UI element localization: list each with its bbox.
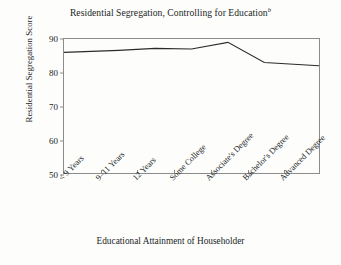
x-axis-tick-labels: < 9 Years9–11 Years12 YearsSome CollegeA… bbox=[63, 176, 320, 226]
chart-title: Residential Segregation, Controlling for… bbox=[0, 6, 341, 18]
y-tick-label-70: 70 bbox=[49, 102, 58, 112]
y-tick-label-90: 90 bbox=[49, 34, 58, 44]
y-axis-title: Residential Segregation Score bbox=[24, 0, 34, 144]
y-tick-label-60: 60 bbox=[49, 136, 58, 146]
chart-title-footnote-marker: b bbox=[268, 6, 271, 13]
chart-figure: Residential Segregation, Controlling for… bbox=[0, 0, 341, 265]
y-tick-mark-70 bbox=[60, 107, 64, 108]
data-series-line bbox=[64, 42, 319, 65]
y-tick-mark-60 bbox=[60, 141, 64, 142]
y-tick-label-80: 80 bbox=[49, 68, 58, 78]
y-tick-mark-90 bbox=[60, 39, 64, 40]
x-axis-title: Educational Attainment of Householder bbox=[0, 236, 341, 246]
y-tick-mark-80 bbox=[60, 73, 64, 74]
chart-title-text: Residential Segregation, Controlling for… bbox=[70, 7, 268, 18]
